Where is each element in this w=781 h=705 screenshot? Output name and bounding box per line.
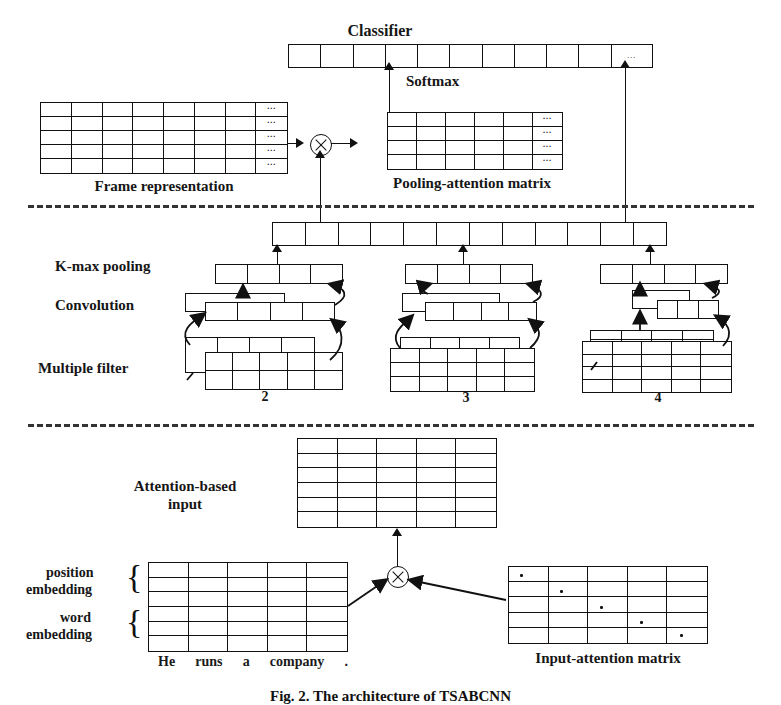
group-2-filter-cell xyxy=(288,371,315,389)
frame-representation-cell: ... xyxy=(256,103,287,117)
classifier-cell xyxy=(579,45,611,67)
frame-representation-cell xyxy=(72,103,103,117)
group-2-to-concat-arrow xyxy=(272,244,282,252)
group-2-kmax-cell xyxy=(311,265,342,283)
frame-representation-cell xyxy=(164,103,195,117)
convolution-label: Convolution xyxy=(55,297,134,314)
embedding-cell xyxy=(149,563,189,578)
figure-caption: Fig. 2. The architecture of TSABCNN xyxy=(0,688,781,705)
frame-representation-cell xyxy=(72,117,103,131)
pooling-attention-cell xyxy=(388,155,417,169)
input-attention-cell xyxy=(667,628,707,643)
frame-representation-cell xyxy=(103,159,134,173)
frame-representation-cell: ... xyxy=(256,131,287,145)
input-attention-matrix xyxy=(508,566,708,644)
group-4-filter-cell xyxy=(583,355,613,368)
position-embedding-label-line1: position xyxy=(46,565,93,581)
input-attention-cell xyxy=(588,567,628,582)
attention-based-input-cell xyxy=(298,468,338,483)
pooling-attention-cell xyxy=(504,141,533,155)
group-3-convolution-vector-b xyxy=(425,302,537,321)
embedding-cell xyxy=(228,592,268,607)
group-2-filter-cell xyxy=(206,353,233,371)
group-2-conv-cell xyxy=(271,303,303,320)
pooling-attention-cell xyxy=(417,127,446,141)
softmax-arrow-head xyxy=(384,62,394,70)
sentence-token: a xyxy=(243,654,250,670)
embedding-cell xyxy=(268,622,308,637)
group-4-filter-cell xyxy=(672,380,702,393)
input-attention-cell xyxy=(588,628,628,643)
frame-representation-cell xyxy=(41,103,72,117)
frame-representation-cell xyxy=(103,117,134,131)
pooling-attention-cell xyxy=(446,113,475,127)
group-4-to-concat-arrow xyxy=(645,244,655,252)
pooling-attention-cell xyxy=(388,127,417,141)
embedding-cell xyxy=(268,592,308,607)
group-3-filter-cell xyxy=(477,363,506,377)
embedding-cell xyxy=(189,636,229,651)
frame-representation-cell xyxy=(164,117,195,131)
pooling-attention-cell: ... xyxy=(533,141,562,155)
group-3-conv-cell xyxy=(426,303,454,320)
skip-connection-line xyxy=(625,68,626,233)
section-divider-top xyxy=(28,205,754,208)
group-4-filter-cell xyxy=(622,331,653,340)
frame-representation-cell: ... xyxy=(256,159,287,173)
group-4-filter-cell xyxy=(701,355,731,368)
group-4-convolution-vector-b xyxy=(657,300,719,319)
word-embedding-label-line2: embedding xyxy=(26,627,92,643)
pooling-attention-cell xyxy=(475,141,504,155)
classifier-cell xyxy=(289,45,321,67)
group-2-filter-matrix-b xyxy=(205,352,343,390)
group-3-filter-cell xyxy=(448,363,477,377)
classifier-label: Classifier xyxy=(348,22,413,40)
attention-dot xyxy=(560,590,563,593)
embedding-cell xyxy=(189,592,229,607)
classifier-cell: ... xyxy=(612,45,652,67)
input-attention-cell xyxy=(667,597,707,612)
group-3-kmax-cell xyxy=(470,265,502,283)
pooling-attention-cell xyxy=(417,155,446,169)
group-4-filter-cell xyxy=(613,367,643,380)
group-3-filter-cell xyxy=(420,349,449,363)
group-4-filter-cell xyxy=(613,355,643,368)
group-4-filter-cell xyxy=(642,367,672,380)
input-attention-cell xyxy=(549,582,589,597)
input-attention-cell xyxy=(549,628,589,643)
input-attention-cell xyxy=(509,613,549,628)
group-2-kmax-cell xyxy=(216,265,248,283)
kmax-pooling-label: K-max pooling xyxy=(55,258,150,275)
attention-based-input-cell xyxy=(417,498,457,513)
frame-representation-cell xyxy=(195,117,226,131)
group-3-conv-cell xyxy=(454,303,482,320)
group-2-filter-cell xyxy=(288,353,315,371)
embedding-cell xyxy=(189,607,229,622)
group-3-filter-cell xyxy=(391,363,420,377)
embedding-cell xyxy=(307,607,347,622)
embedding-cell xyxy=(228,636,268,651)
attention-based-input-cell xyxy=(377,483,417,498)
frame-representation-cell xyxy=(195,103,226,117)
embedding-cell xyxy=(149,636,189,651)
attention-based-input-cell xyxy=(456,439,496,454)
input-attention-cell xyxy=(509,567,549,582)
embedding-cell xyxy=(307,622,347,637)
group-2-kmax-cell xyxy=(280,265,312,283)
group-4-kmax-cell xyxy=(696,265,727,283)
pooling-attention-cell xyxy=(504,127,533,141)
frame-representation-cell xyxy=(72,159,103,173)
pooling-attention-cell xyxy=(446,155,475,169)
pooling-attention-cell: ... xyxy=(533,113,562,127)
attention-based-input-cell xyxy=(417,468,457,483)
sentence-token: He xyxy=(158,654,175,670)
embedding-cell xyxy=(228,578,268,593)
frame-representation-cell xyxy=(226,117,257,131)
group-2-filter-cell xyxy=(315,371,342,389)
attention-based-input-matrix xyxy=(297,438,497,528)
attention-dot xyxy=(640,621,643,624)
attention-based-input-cell xyxy=(338,498,378,513)
group-3-kmax-cell xyxy=(501,265,532,283)
group-4-filter-cell xyxy=(613,380,643,393)
input-attention-cell xyxy=(549,567,589,582)
